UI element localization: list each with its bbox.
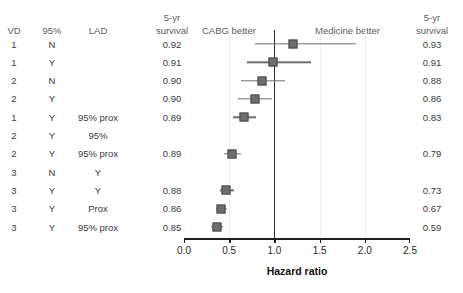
point-estimate-marker [217, 204, 226, 213]
x-axis-title: Hazard ratio [267, 265, 328, 277]
cell-lad: Prox [88, 203, 108, 214]
confidence-interval-bar [247, 62, 310, 63]
axis-tick-label: 0.5 [222, 245, 236, 256]
cell-vd: 3 [11, 185, 16, 196]
axis-tick-label: 2.5 [403, 245, 417, 256]
cell-survival-right: 0.83 [423, 112, 442, 123]
cell-survival-right: 0.86 [423, 93, 442, 104]
cell-survival-right: 0.88 [423, 75, 442, 86]
column-header-survival-left-line1: 5-yr [164, 12, 180, 23]
cell-vd: 3 [11, 167, 16, 178]
axis-tick [409, 238, 410, 243]
cell-lad: Y [95, 167, 101, 178]
axis-tick [274, 238, 275, 243]
cell-survival-right: 0.91 [423, 57, 442, 68]
cell-95pct: Y [49, 93, 55, 104]
column-header-vd: VD [7, 25, 20, 36]
cell-survival-right: 0.59 [423, 222, 442, 233]
cell-95pct: Y [49, 130, 55, 141]
axis-tick [229, 238, 230, 243]
cell-survival-left: 0.91 [163, 57, 182, 68]
cell-95pct: Y [49, 57, 55, 68]
cell-survival-left: 0.89 [163, 112, 182, 123]
gridline [365, 30, 366, 238]
cell-95pct: N [49, 75, 56, 86]
axis-tick-label: 2.0 [358, 245, 372, 256]
cell-vd: 2 [11, 75, 16, 86]
cell-vd: 2 [11, 148, 16, 159]
cell-survival-left: 0.85 [163, 222, 182, 233]
axis-tick-label: 1.0 [267, 245, 281, 256]
axis-tick [184, 238, 185, 243]
cell-95pct: Y [49, 203, 55, 214]
axis-tick-label: 0.0 [177, 245, 191, 256]
plot-area [184, 30, 410, 238]
column-header-95pct: 95% [42, 25, 61, 36]
point-estimate-marker [227, 149, 236, 158]
cell-95pct: Y [49, 112, 55, 123]
cell-survival-left: 0.90 [163, 93, 182, 104]
cell-survival-left: 0.92 [163, 39, 182, 50]
confidence-interval-bar [255, 43, 355, 44]
axis-tick-label: 1.5 [313, 245, 327, 256]
cell-vd: 2 [11, 93, 16, 104]
cell-95pct: N [49, 39, 56, 50]
cell-vd: 1 [11, 57, 16, 68]
cell-survival-right: 0.67 [423, 203, 442, 214]
cell-survival-left: 0.90 [163, 75, 182, 86]
cell-vd: 3 [11, 203, 16, 214]
column-header-survival-right-line2: survival [416, 25, 448, 36]
column-header-lad: LAD [89, 25, 107, 36]
point-estimate-marker [239, 113, 248, 122]
axis-tick [320, 238, 321, 243]
cell-vd: 1 [11, 112, 16, 123]
column-header-survival-right-line1: 5-yr [424, 12, 440, 23]
cell-95pct: Y [49, 185, 55, 196]
cell-vd: 2 [11, 130, 16, 141]
cell-95pct: N [49, 167, 56, 178]
point-estimate-marker [222, 186, 231, 195]
cell-lad: Y [95, 185, 101, 196]
cell-vd: 3 [11, 222, 16, 233]
cell-survival-left: 0.86 [163, 203, 182, 214]
forest-plot-figure: VD 95% LAD 5-yr survival 5-yr survival C… [0, 0, 463, 293]
cell-vd: 1 [11, 39, 16, 50]
cell-95pct: Y [49, 222, 55, 233]
point-estimate-marker [289, 40, 298, 49]
cell-survival-right: 0.79 [423, 148, 442, 159]
point-estimate-marker [251, 94, 260, 103]
gridline [320, 30, 321, 238]
x-axis [184, 238, 410, 240]
cell-survival-right: 0.73 [423, 185, 442, 196]
gridline [229, 30, 230, 238]
point-estimate-marker [257, 76, 266, 85]
cell-95pct: Y [49, 148, 55, 159]
cell-survival-right: 0.93 [423, 39, 442, 50]
cell-survival-left: 0.88 [163, 185, 182, 196]
point-estimate-marker [212, 223, 221, 232]
point-estimate-marker [268, 58, 277, 67]
cell-lad: 95% prox [78, 112, 118, 123]
axis-tick [365, 238, 366, 243]
cell-lad: 95% prox [78, 148, 118, 159]
cell-lad: 95% prox [78, 222, 118, 233]
cell-survival-left: 0.89 [163, 148, 182, 159]
cell-lad: 95% [88, 130, 107, 141]
